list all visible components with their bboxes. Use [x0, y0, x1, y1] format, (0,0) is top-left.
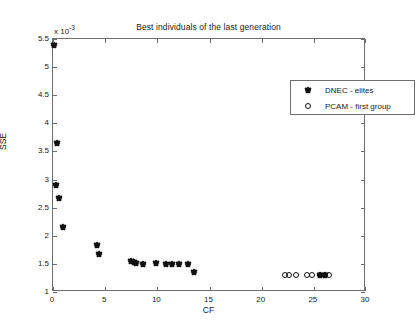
- y-tick-label: 4: [45, 118, 49, 127]
- data-point-dnec: [153, 259, 160, 266]
- data-point-dnec: [96, 250, 103, 257]
- x-tick-label: 30: [361, 295, 370, 304]
- y-tick-mark: [361, 292, 365, 293]
- legend-label-dnec-elites: DNEC - elites: [325, 86, 373, 95]
- x-tick-mark: [210, 39, 211, 43]
- x-tick-mark: [314, 39, 315, 43]
- plot-area: DNEC - elites PCAM - first group: [52, 38, 365, 291]
- y-tick-mark: [53, 236, 57, 237]
- data-point-dnec: [190, 268, 197, 275]
- legend: DNEC - elites PCAM - first group: [290, 80, 415, 115]
- data-point-dnec: [93, 242, 100, 249]
- x-tick-mark: [157, 287, 158, 291]
- x-tick-label: 0: [50, 295, 54, 304]
- data-point-dnec: [184, 260, 191, 267]
- legend-label-pcam-first-group: PCAM - first group: [325, 102, 391, 111]
- data-point-dnec: [56, 194, 63, 201]
- data-point-dnec: [168, 261, 175, 268]
- x-tick-mark: [53, 39, 54, 43]
- y-tick-mark: [53, 180, 57, 181]
- y-axis-tick-labels: 11.522.533.544.555.5: [0, 0, 49, 333]
- y-tick-mark: [53, 264, 57, 265]
- x-tick-mark: [105, 287, 106, 291]
- data-point-dnec: [176, 260, 183, 267]
- y-tick-mark: [361, 67, 365, 68]
- x-tick-mark: [365, 39, 366, 43]
- y-tick-label: 3.5: [38, 146, 49, 155]
- x-axis-label: CF: [52, 305, 365, 315]
- y-tick-mark: [361, 208, 365, 209]
- filled-diamond-icon: [291, 82, 325, 98]
- x-tick-label: 5: [102, 295, 106, 304]
- x-tick-mark: [262, 287, 263, 291]
- y-tick-mark: [53, 123, 57, 124]
- y-tick-mark: [53, 208, 57, 209]
- data-point-pcam: [309, 272, 315, 278]
- y-tick-label: 4.5: [38, 90, 49, 99]
- y-tick-mark: [361, 151, 365, 152]
- y-tick-label: 3: [45, 174, 49, 183]
- x-tick-label: 25: [308, 295, 317, 304]
- y-tick-label: 1: [45, 287, 49, 296]
- open-circle-icon: [291, 98, 325, 114]
- y-tick-mark: [361, 264, 365, 265]
- y-tick-label: 1.5: [38, 258, 49, 267]
- x-tick-mark: [53, 287, 54, 291]
- data-point-dnec: [53, 139, 60, 146]
- data-point-dnec: [53, 182, 60, 189]
- y-tick-label: 2: [45, 230, 49, 239]
- legend-entry-dnec-elites: DNEC - elites: [291, 82, 416, 98]
- x-tick-label: 20: [256, 295, 265, 304]
- x-tick-mark: [105, 39, 106, 43]
- x-tick-mark: [314, 287, 315, 291]
- data-point-dnec: [139, 260, 146, 267]
- y-tick-mark: [53, 67, 57, 68]
- y-tick-label: 5: [45, 62, 49, 71]
- y-tick-mark: [361, 123, 365, 124]
- data-point-pcam: [286, 272, 292, 278]
- y-tick-mark: [53, 292, 57, 293]
- legend-entry-pcam-first-group: PCAM - first group: [291, 98, 416, 114]
- x-tick-mark: [157, 39, 158, 43]
- x-tick-label: 10: [152, 295, 161, 304]
- x-tick-label: 15: [204, 295, 213, 304]
- data-point-dnec: [59, 224, 66, 231]
- data-point-pcam: [326, 272, 332, 278]
- x-tick-mark: [210, 287, 211, 291]
- x-tick-mark: [262, 39, 263, 43]
- y-tick-mark: [53, 95, 57, 96]
- y-tick-label: 2.5: [38, 202, 49, 211]
- y-tick-mark: [361, 236, 365, 237]
- x-tick-mark: [365, 287, 366, 291]
- y-tick-mark: [53, 151, 57, 152]
- chart-title: Best individuals of the last generation: [52, 22, 365, 32]
- y-tick-label: 5.5: [38, 34, 49, 43]
- data-point-pcam: [293, 272, 299, 278]
- y-tick-mark: [361, 180, 365, 181]
